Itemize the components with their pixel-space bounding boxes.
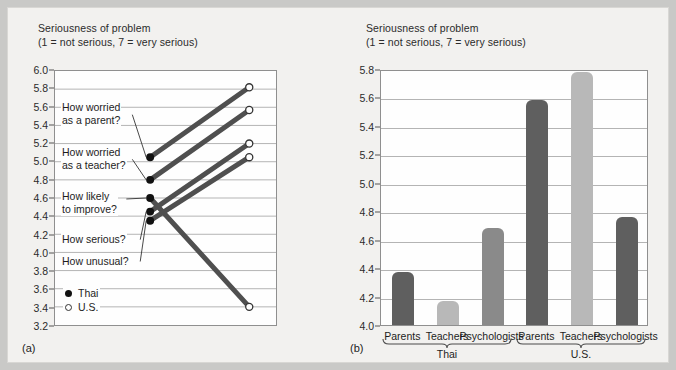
callout-how-worried-teacher: How worried as a teacher?: [61, 146, 127, 172]
panel-b-tick-mark: [375, 70, 380, 71]
panel-a-tick-mark: [49, 326, 54, 327]
panel-a-legend: Thai U.S.: [63, 286, 100, 314]
figure-container: Seriousness of problem (1 = not serious,…: [8, 8, 668, 362]
panel-b-ytick: 5.2: [340, 149, 374, 161]
panel-a-letter: (a): [22, 342, 35, 354]
panel-a-ytick: 5.6: [14, 101, 48, 113]
open-dot-icon: [246, 154, 253, 161]
panel-a-ytick: 5.2: [14, 137, 48, 149]
filled-dot-icon: [146, 194, 154, 202]
legend-item-us: U.S.: [65, 300, 98, 314]
panel-a-slope-lines: [126, 87, 249, 307]
panel-a-ytick: 4.4: [14, 210, 48, 222]
panel-a-ytick: 4.8: [14, 174, 48, 186]
callout-how-worried-parent: How worried as a parent?: [61, 101, 121, 127]
panel-b-group-brackets: [380, 326, 648, 360]
callout-how-unusual: How unusual?: [61, 255, 130, 268]
group-bracket: [383, 339, 511, 348]
callout-how-likely-improve: How likely to improve?: [61, 190, 118, 216]
panel-a-plot-area: How worried as a parent? How worried as …: [54, 70, 277, 326]
open-dot-icon: [246, 84, 253, 91]
panel-a-ytick: 4.2: [14, 229, 48, 241]
panel-b-tick-mark: [375, 297, 380, 298]
panel-b-tick-mark: [375, 212, 380, 213]
panel-b-gridline: [381, 213, 647, 214]
panel-b-gridline: [381, 299, 647, 300]
panel-a-tick-mark: [49, 252, 54, 253]
panel-a-tick-mark: [49, 70, 54, 71]
open-dot-icon: [246, 303, 253, 310]
panel-a-tick-mark: [49, 271, 54, 272]
legend-item-thai: Thai: [65, 286, 98, 300]
panel-b-tick-mark: [375, 155, 380, 156]
panel-a-axis-title: Seriousness of problem (1 = not serious,…: [38, 22, 198, 49]
panel-b-ytick: 4.4: [340, 263, 374, 275]
slope-line: [150, 144, 249, 212]
bar: [392, 272, 414, 325]
filled-dot-icon: [146, 153, 154, 161]
panel-b-ytick: 4.6: [340, 235, 374, 247]
panel-b-gridline: [381, 185, 647, 186]
panel-a-tick-mark: [49, 88, 54, 89]
panel-b-ytick: 5.4: [340, 121, 374, 133]
panel-b-ytick: 5.8: [340, 64, 374, 76]
panel-a-tick-mark: [49, 216, 54, 217]
panel-b: Seriousness of problem (1 = not serious,…: [338, 8, 668, 362]
legend-label-thai: Thai: [78, 287, 98, 299]
panel-b-axis-title: Seriousness of problem (1 = not serious,…: [366, 22, 526, 49]
panel-b-group-label: U.S.: [571, 348, 591, 360]
open-dot-icon: [246, 106, 253, 113]
bar: [526, 100, 548, 325]
bar: [482, 228, 504, 325]
panel-b-gridline: [381, 128, 647, 129]
panel-a-ytick: 3.8: [14, 265, 48, 277]
panel-b-ytick: 5.0: [340, 178, 374, 190]
filled-dot-icon: [146, 217, 154, 225]
bar: [616, 217, 638, 325]
panel-a-tick-mark: [49, 106, 54, 107]
panel-b-tick-mark: [375, 269, 380, 270]
panel-b-gridline: [381, 270, 647, 271]
leader-line: [132, 115, 146, 158]
panel-a-tick-mark: [49, 307, 54, 308]
panel-b-group-label: Thai: [437, 348, 457, 360]
panel-b-tick-mark: [375, 126, 380, 127]
callout-how-serious: How serious?: [61, 233, 127, 246]
panel-a-tick-mark: [49, 179, 54, 180]
panel-b-letter: (b): [350, 342, 363, 354]
bar: [437, 301, 459, 325]
panel-a-tick-mark: [49, 234, 54, 235]
panel-a-ytick: 5.0: [14, 155, 48, 167]
panel-a-ytick: 3.6: [14, 283, 48, 295]
panel-b-tick-mark: [375, 240, 380, 241]
panel-b-ytick: 4.0: [340, 320, 374, 332]
filled-dot-icon: [65, 290, 72, 297]
filled-dot-icon: [146, 176, 154, 184]
open-dot-icon: [65, 304, 72, 311]
panel-b-tick-mark: [375, 98, 380, 99]
panel-a-ytick: 3.4: [14, 302, 48, 314]
panel-a-tick-mark: [49, 198, 54, 199]
panel-b-ytick: 5.6: [340, 92, 374, 104]
panel-a-tick-mark: [49, 289, 54, 290]
panel-a-tick-mark: [49, 161, 54, 162]
filled-dot-icon: [146, 208, 154, 216]
panel-a-ytick: 3.2: [14, 320, 48, 332]
panel-a: Seriousness of problem (1 = not serious,…: [8, 8, 338, 362]
panel-a-tick-mark: [49, 143, 54, 144]
panel-a-ytick: 4.0: [14, 247, 48, 259]
group-bracket: [517, 339, 645, 348]
panel-b-gridline: [381, 242, 647, 243]
panel-b-gridline: [381, 156, 647, 157]
bar: [571, 72, 593, 325]
panel-a-tick-mark: [49, 124, 54, 125]
panel-a-ytick: 4.6: [14, 192, 48, 204]
panel-b-gridline: [381, 99, 647, 100]
leader-line: [132, 159, 146, 180]
panel-a-ytick: 5.4: [14, 119, 48, 131]
open-dot-icon: [246, 140, 253, 147]
panel-a-ytick: 5.8: [14, 82, 48, 94]
legend-label-us: U.S.: [78, 301, 98, 313]
panel-b-ytick: 4.8: [340, 206, 374, 218]
panel-a-ytick: 6.0: [14, 64, 48, 76]
